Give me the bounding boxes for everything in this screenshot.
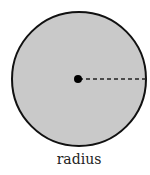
center-dot	[74, 75, 82, 83]
circle-diagram	[0, 0, 150, 175]
radius-label: radius	[0, 151, 150, 167]
